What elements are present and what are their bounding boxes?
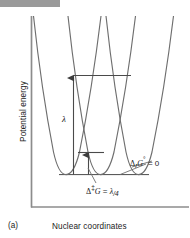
annotation-activation-free-energy: Δ‡G = λ/4 (86, 184, 119, 197)
parabola-curves (34, 16, 174, 175)
y-axis-label: Potential energy (19, 52, 28, 172)
potential-energy-diagram (0, 0, 190, 238)
panel-letter: (a) (8, 221, 18, 230)
equals-zero: = 0 (148, 159, 159, 168)
lambda-arrow (74, 76, 132, 175)
figure-panel: Potential energy Nuclear coordinates (a)… (0, 0, 190, 238)
axes (31, 16, 189, 208)
x-axis-label: Nuclear coordinates (52, 222, 127, 231)
annotation-reaction-free-energy: ΔrG° = 0 (130, 156, 159, 169)
fraction-denominator: 4 (115, 190, 119, 197)
parabola-left (34, 16, 102, 175)
g-symbol: G (95, 187, 101, 196)
lambda-label: λ (62, 114, 66, 124)
equals-sign: = (103, 187, 108, 196)
standard-state-degree: ° (143, 156, 146, 163)
parabola-right (106, 16, 174, 175)
